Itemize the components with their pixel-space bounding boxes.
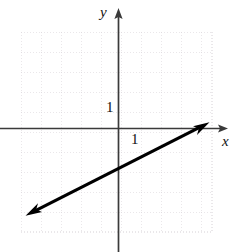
y-axis-label: y	[100, 5, 107, 20]
y-axis-tick-label-1: 1	[106, 100, 114, 115]
x-axis-label: x	[222, 134, 229, 149]
x-axis-tick-label-1: 1	[131, 132, 139, 147]
coordinate-plane-figure: y x 1 1	[0, 0, 238, 252]
graph-canvas	[0, 0, 238, 252]
